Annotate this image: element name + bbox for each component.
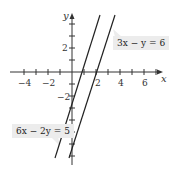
x-tick-label: 6 xyxy=(142,78,148,88)
x-tick-label: 2 xyxy=(95,78,101,88)
x-tick-label: −2 xyxy=(42,78,55,88)
x-axis-label: x xyxy=(161,73,167,84)
equation-callout-6x-2y-5: 6x − 2y = 5 xyxy=(12,124,74,138)
y-tick-label: −2 xyxy=(57,92,70,102)
x-axis xyxy=(10,69,163,75)
x-tick-label: 4 xyxy=(118,78,124,88)
equation-callout-3x-y-6: 3x − y = 6 xyxy=(113,36,169,50)
line-3x-y-6 xyxy=(69,15,115,158)
y-axis-label: y xyxy=(62,10,69,21)
x-tick-label: −4 xyxy=(18,78,32,88)
coordinate-plot: −4 −2 2 4 6 2 −2 x y xyxy=(0,0,177,172)
y-tick-label: 2 xyxy=(62,43,68,53)
